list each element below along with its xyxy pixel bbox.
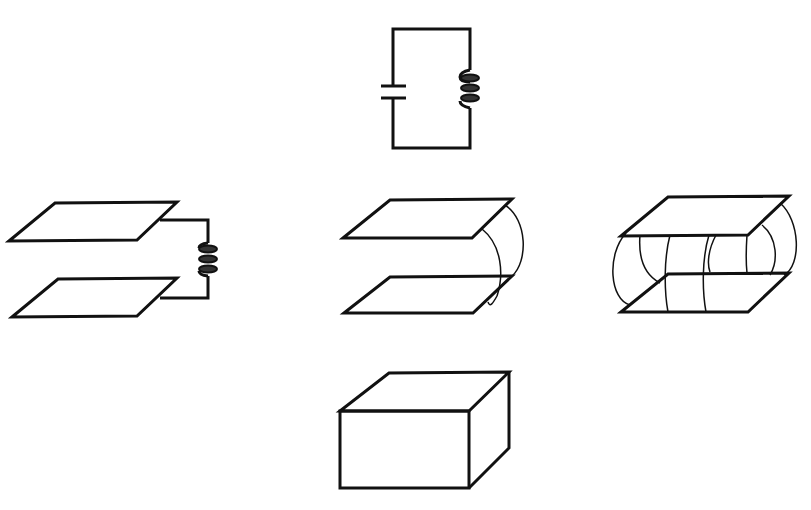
resonator-diagram: LC circuit with capacitor and inductor c…: [0, 0, 811, 510]
lc-circuit: LC circuit with capacitor and inductor c…: [381, 29, 479, 148]
closed-box: Closed box cavity resonator: [340, 372, 509, 488]
plates-with-single-loop: Parallel plates connected by single loop: [343, 199, 523, 313]
top-plate: [343, 199, 512, 238]
box-side-face: [469, 372, 509, 488]
inductor-coil-icon: [460, 70, 479, 108]
box-front-face: [340, 411, 469, 488]
bottom-plate: [12, 278, 177, 317]
top-plate: [621, 196, 789, 236]
box-top-face: [340, 372, 509, 411]
inductor-coil-icon: [199, 243, 217, 276]
plates-with-coil: Parallel plates connected by inductor co…: [9, 202, 217, 317]
plates-with-many-loops: Parallel plates connected by many loops: [613, 196, 796, 312]
top-plate: [9, 202, 177, 241]
bottom-plate: [344, 276, 512, 313]
